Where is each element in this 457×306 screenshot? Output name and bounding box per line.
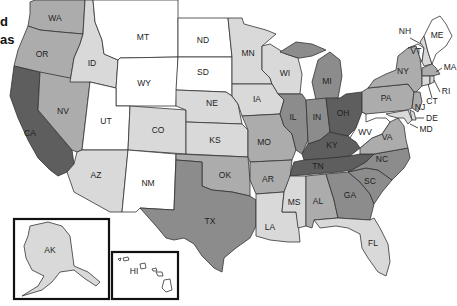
state-label-CT: CT — [426, 96, 437, 106]
state-label-IL: IL — [289, 112, 296, 122]
state-label-NE: NE — [206, 98, 218, 108]
state-label-DE: DE — [426, 113, 438, 123]
state-label-PA: PA — [381, 93, 392, 103]
state-label-IN: IN — [313, 112, 322, 122]
state-label-WI: WI — [280, 68, 290, 78]
us-choropleth-map: WA OR CA NV ID MT WY UT AZ CO NM — [0, 0, 457, 306]
state-MT[interactable]: MT — [93, 0, 178, 60]
state-label-VA: VA — [382, 132, 393, 142]
state-label-OR: OR — [36, 49, 49, 59]
state-CO[interactable]: CO — [128, 106, 186, 154]
state-label-TX: TX — [205, 216, 216, 226]
state-label-CO: CO — [152, 125, 165, 135]
state-ND[interactable]: ND — [178, 18, 232, 57]
state-label-NM: NM — [141, 178, 154, 188]
state-AZ[interactable]: AZ — [67, 150, 128, 212]
state-label-IA: IA — [253, 94, 261, 104]
state-label-MA: MA — [444, 62, 457, 72]
state-label-WV: WV — [358, 127, 372, 137]
state-label-AK: AK — [44, 245, 56, 255]
state-CT[interactable] — [422, 76, 430, 86]
state-label-ME: ME — [431, 30, 444, 40]
state-KS[interactable]: KS — [186, 122, 248, 157]
state-label-MD: MD — [419, 124, 432, 134]
state-RI[interactable] — [430, 76, 434, 84]
hawaii-inset: HI — [112, 252, 178, 299]
state-label-AZ: AZ — [91, 170, 102, 180]
state-label-MN: MN — [241, 48, 254, 58]
state-label-AR: AR — [262, 174, 274, 184]
state-label-KY: KY — [326, 140, 338, 150]
state-label-OH: OH — [337, 108, 350, 118]
state-label-NJ: NJ — [415, 102, 425, 112]
state-label-VT: VT — [411, 46, 422, 56]
state-label-OK: OK — [219, 170, 232, 180]
state-label-HI: HI — [130, 266, 139, 276]
state-label-SC: SC — [364, 176, 376, 186]
state-FL[interactable]: FL — [314, 218, 390, 276]
state-PA[interactable]: PA — [362, 84, 414, 114]
state-label-ID: ID — [88, 58, 97, 68]
state-label-CA: CA — [24, 128, 36, 138]
state-label-SD: SD — [197, 67, 209, 77]
state-label-WY: WY — [137, 78, 151, 88]
state-label-NY: NY — [397, 66, 409, 76]
state-label-MT: MT — [137, 32, 149, 42]
state-label-RI: RI — [442, 86, 451, 96]
state-label-FL: FL — [368, 238, 378, 248]
state-label-KS: KS — [209, 135, 221, 145]
state-label-LA: LA — [265, 222, 276, 232]
state-label-MO: MO — [257, 137, 271, 147]
state-label-UT: UT — [100, 116, 111, 126]
alaska-inset: AK — [14, 219, 109, 299]
state-label-TN: TN — [312, 161, 323, 171]
state-label-MS: MS — [288, 197, 301, 207]
state-label-GA: GA — [344, 190, 357, 200]
state-label-NV: NV — [57, 106, 69, 116]
state-label-ND: ND — [197, 35, 209, 45]
state-WY[interactable]: WY — [116, 57, 178, 106]
state-label-NH: NH — [399, 26, 411, 36]
state-label-WA: WA — [48, 13, 62, 23]
state-NM[interactable]: NM — [122, 150, 176, 212]
state-label-NC: NC — [376, 154, 388, 164]
state-label-AL: AL — [313, 196, 324, 206]
state-label-MI: MI — [322, 76, 331, 86]
